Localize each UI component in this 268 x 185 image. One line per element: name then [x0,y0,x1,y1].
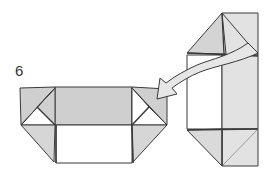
left-model-bottom-panel [56,125,132,163]
right-end-bottom-flap [132,125,167,162]
left-model-top-panel [55,87,132,125]
left-box-model [20,87,167,163]
tower-right-column [222,55,258,129]
tower-bottom-left-flap [187,129,222,166]
left-end-bottom-flap [21,125,55,162]
tower-top-left-flap [187,13,226,54]
origami-diagram [0,0,268,185]
right-tower-model [187,13,258,166]
